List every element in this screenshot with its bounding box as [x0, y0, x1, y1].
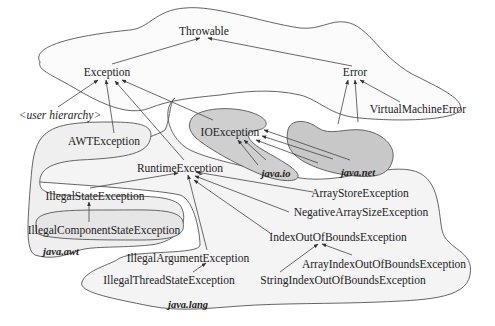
package-java-lang: java.lang	[166, 299, 208, 310]
node-runtime-exception: RuntimeException	[137, 162, 223, 175]
node-illegal-state-exception: IllegalStateException	[46, 190, 145, 203]
node-illegal-component-state-exception: IllegalComponentStateException	[28, 224, 181, 237]
node-user-hierarchy: <user hierarchy>	[19, 109, 101, 122]
node-array-index-out-of-bounds-exception: ArrayIndexOutOfBoundsException	[302, 258, 466, 271]
node-illegal-argument-exception: IllegalArgumentException	[127, 252, 250, 265]
package-java-awt: java.awt	[41, 246, 80, 257]
package-java-io: java.io	[260, 168, 291, 179]
node-awt-exception: AWTException	[68, 135, 140, 148]
package-java-net: java.net	[339, 167, 376, 178]
node-throwable: Throwable	[179, 25, 229, 37]
node-virtual-machine-error: VirtualMachineError	[370, 103, 467, 115]
node-negative-array-size-exception: NegativeArraySizeException	[294, 206, 429, 219]
node-io-exception: IOException	[201, 126, 260, 139]
node-error: Error	[343, 66, 367, 78]
node-index-out-of-bounds-exception: IndexOutOfBoundsException	[269, 231, 407, 244]
exception-hierarchy-diagram: Throwable Exception Error VirtualMachine…	[0, 0, 495, 326]
diagram-canvas: Throwable Exception Error VirtualMachine…	[0, 0, 495, 326]
node-string-index-out-of-bounds-exception: StringIndexOutOfBoundsException	[260, 274, 426, 287]
node-array-store-exception: ArrayStoreException	[311, 187, 409, 200]
node-exception: Exception	[84, 66, 131, 79]
node-illegal-thread-state-exception: IllegalThreadStateException	[103, 274, 235, 287]
